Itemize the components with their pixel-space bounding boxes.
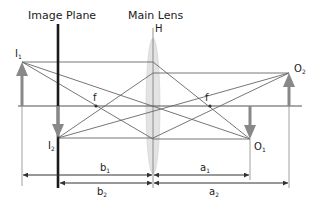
dimension-label-b1: b1 <box>100 163 110 174</box>
point-label-i1: I1 <box>15 49 22 60</box>
arrow-o2 <box>283 73 295 106</box>
arrow-i1 <box>16 62 28 106</box>
dimension-label-a2: a2 <box>209 187 219 198</box>
focal-point-left <box>94 104 97 107</box>
point-label-o2: O2 <box>294 64 306 75</box>
focal-label-right: f <box>205 93 209 103</box>
focal-point-right <box>208 104 211 107</box>
main-lens-label: Main Lens <box>128 10 183 21</box>
dimension-label-a1: a1 <box>200 163 210 174</box>
image-plane-label: Image Plane <box>28 10 96 21</box>
focal-label-left: f <box>93 93 97 103</box>
arrow-o1 <box>244 106 256 139</box>
point-label-i2: I2 <box>48 141 55 152</box>
principal-plane-label: H <box>155 24 163 34</box>
point-label-o1: O1 <box>254 142 266 153</box>
dimension-label-b2: b2 <box>97 187 107 198</box>
arrow-i2 <box>52 106 64 138</box>
